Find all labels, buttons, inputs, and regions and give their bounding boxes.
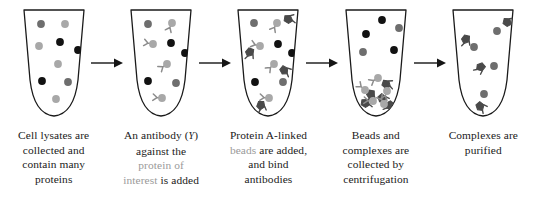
caption-text: against the xyxy=(136,145,186,157)
tube-protein-a-beads-added xyxy=(230,6,306,120)
protein-dot xyxy=(251,19,259,27)
caption-text: interest xyxy=(123,174,157,186)
stage-complexes-purified: Complexes arepurified xyxy=(430,0,537,210)
arrow-stage2-to-stage3-wrap xyxy=(198,54,232,72)
stage-centrifugation: Beads andcomplexes arecollected bycentri… xyxy=(322,0,429,210)
arrow-stage2-to-stage3 xyxy=(198,54,232,72)
arrow-stage1-to-stage2-wrap xyxy=(90,54,124,72)
protein-dot xyxy=(64,78,72,86)
caption-text: Beads and xyxy=(352,129,400,141)
caption-text: is added xyxy=(158,174,199,186)
protein-dot xyxy=(493,27,501,35)
caption-line: interest is added xyxy=(107,173,214,188)
stage-protein-a-beads-added: Protein A-linkedbeads are added,and bind… xyxy=(215,0,322,210)
caption-text: contain many xyxy=(22,158,85,170)
protein-dot xyxy=(144,77,152,85)
caption-line: against the xyxy=(107,144,214,159)
protein-dot xyxy=(163,60,171,68)
caption-centrifugation: Beads andcomplexes arecollected bycentri… xyxy=(322,128,429,186)
protein-dot xyxy=(149,40,157,48)
caption-line: collected by xyxy=(322,157,429,172)
caption-line: beads are added, xyxy=(215,143,322,158)
caption-text: collected and xyxy=(23,144,85,156)
protein-dot xyxy=(480,90,488,98)
protein-dot xyxy=(490,62,498,70)
protein-dot xyxy=(158,94,166,102)
protein-dot xyxy=(390,46,398,54)
protein-dot xyxy=(362,30,370,38)
arrow-stage4-to-stage5-wrap xyxy=(413,54,447,72)
protein-dot xyxy=(361,86,369,94)
caption-line: protein of xyxy=(107,158,214,173)
arrow-stage3-to-stage4-wrap xyxy=(305,54,339,72)
protein-dot xyxy=(56,38,64,46)
caption-line: Beads and xyxy=(322,128,429,143)
protein-dot xyxy=(395,24,403,32)
caption-complexes-purified: Complexes arepurified xyxy=(430,128,537,186)
caption-line: Complexes are xyxy=(430,128,537,143)
protein-dot xyxy=(167,39,175,47)
protein-dot xyxy=(374,74,382,82)
tube-complexes-purified xyxy=(445,6,521,120)
caption-line: complexes are xyxy=(322,143,429,158)
protein-dot xyxy=(380,100,388,108)
caption-text: Protein A-linked xyxy=(230,129,307,141)
protein-dot xyxy=(470,43,478,51)
caption-text: antibodies xyxy=(245,173,293,185)
caption-line xyxy=(430,157,537,172)
protein-dot xyxy=(54,60,62,68)
stage-cell-lysates: Cell lysates arecollected andcontain man… xyxy=(0,0,107,210)
caption-text: complexes are xyxy=(343,144,410,156)
caption-text: Complexes are xyxy=(449,129,518,141)
caption-text: Cell lysates are xyxy=(18,129,89,141)
protein-dot xyxy=(38,77,46,85)
arrow-stage1-to-stage2 xyxy=(90,54,124,72)
caption-line: and bind xyxy=(215,157,322,172)
caption-line: proteins xyxy=(0,172,107,187)
arrow-stage4-to-stage5 xyxy=(413,54,447,72)
tube-centrifugation xyxy=(338,6,414,120)
caption-text: and bind xyxy=(248,158,288,170)
caption-text: beads xyxy=(230,144,256,156)
caption-line: An antibody (Y) xyxy=(107,128,214,144)
protein-dot xyxy=(359,48,367,56)
caption-line: antibodies xyxy=(215,172,322,187)
protein-dot xyxy=(168,19,176,27)
protein-dot xyxy=(369,97,377,105)
protein-dot xyxy=(378,16,386,24)
caption-text: proteins xyxy=(35,173,73,185)
caption-text: collected by xyxy=(348,158,405,170)
caption-text: purified xyxy=(465,144,502,156)
caption-line: Protein A-linked xyxy=(215,128,322,143)
caption-protein-a-beads-added: Protein A-linkedbeads are added,and bind… xyxy=(215,128,322,186)
caption-text: ) xyxy=(194,129,198,141)
arrow-stage3-to-stage4 xyxy=(305,54,339,72)
tube-outline xyxy=(453,10,513,116)
caption-line: Cell lysates are xyxy=(0,128,107,143)
tube-antibody-added xyxy=(123,6,199,120)
protein-dot xyxy=(144,20,152,28)
protein-dot xyxy=(280,78,288,86)
protein-dot xyxy=(383,87,391,95)
caption-line: purified xyxy=(430,143,537,158)
protein-dot xyxy=(275,40,283,48)
immunoprecipitation-diagram: Cell lysates arecollected andcontain man… xyxy=(0,0,537,210)
caption-text: An antibody ( xyxy=(124,129,189,141)
caption-text: centrifugation xyxy=(343,173,408,185)
stage-antibody-added: An antibody (Y)against theprotein ofinte… xyxy=(107,0,214,210)
caption-text: protein of xyxy=(138,159,184,171)
protein-dot xyxy=(257,42,265,50)
protein-dot xyxy=(35,42,43,50)
caption-cell-lysates: Cell lysates arecollected andcontain man… xyxy=(0,128,107,186)
protein-dot xyxy=(61,20,69,28)
caption-line: collected and xyxy=(0,143,107,158)
caption-line xyxy=(430,172,537,187)
protein-dot xyxy=(252,78,260,86)
caption-line: contain many xyxy=(0,157,107,172)
protein-dot xyxy=(271,60,279,68)
protein-dot xyxy=(266,94,274,102)
caption-antibody-added: An antibody (Y)against theprotein ofinte… xyxy=(107,128,214,187)
protein-dot xyxy=(52,95,60,103)
tube-cell-lysates xyxy=(16,6,92,120)
protein-dot xyxy=(172,79,180,87)
